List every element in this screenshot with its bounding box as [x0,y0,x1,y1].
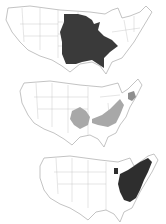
us-map-bottom [0,150,166,224]
map-panel-bottom [0,150,166,224]
us-map-top [0,2,166,74]
map-panel-middle [0,75,166,149]
map-panel-top [0,2,166,74]
us-map-middle [0,75,166,149]
shaded-region-michigan-part [114,168,118,174]
